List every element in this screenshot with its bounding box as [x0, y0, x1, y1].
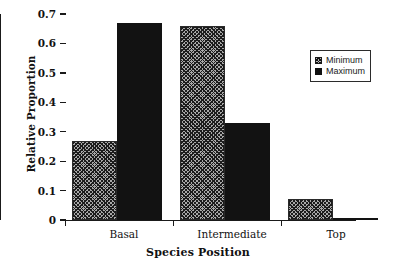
hatched-swatch-icon — [315, 57, 322, 64]
bar-basal-minimum — [72, 141, 117, 220]
y-tick-label: 0.7 — [16, 9, 56, 20]
bars-layer — [65, 14, 356, 220]
bar-chart: Relative Proportion 0 0.1 0.2 0.3 0.4 0.… — [0, 0, 396, 273]
x-axis-tick — [65, 220, 66, 226]
x-category-label-top: Top — [276, 229, 396, 240]
legend-label-minimum: Minimum — [326, 56, 363, 65]
legend-item-maximum: Maximum — [315, 66, 365, 77]
chart-legend: Minimum Maximum — [310, 50, 371, 82]
y-tick-label: 0 — [16, 215, 56, 226]
y-axis-line — [0, 14, 1, 220]
x-axis-tick — [281, 220, 282, 226]
bar-top-maximum — [333, 218, 378, 220]
x-category-label-basal: Basal — [64, 229, 184, 240]
y-tick-label: 0.2 — [16, 156, 56, 167]
y-tick-label: 0.4 — [16, 97, 56, 108]
bar-intermediate-maximum — [225, 123, 270, 220]
x-category-label-intermediate: Intermediate — [172, 229, 292, 240]
legend-label-maximum: Maximum — [326, 67, 365, 76]
bar-basal-maximum — [117, 23, 162, 220]
bar-intermediate-minimum — [180, 26, 225, 220]
solid-swatch-icon — [315, 68, 322, 75]
y-tick-label: 0.6 — [16, 38, 56, 49]
x-axis-tick — [173, 220, 174, 226]
legend-item-minimum: Minimum — [315, 55, 365, 66]
bar-top-minimum — [288, 199, 333, 220]
y-tick-label: 0.1 — [16, 185, 56, 196]
y-tick-label: 0.5 — [16, 68, 56, 79]
y-axis-title: Relative Proportion — [25, 34, 37, 194]
y-tick-label: 0.3 — [16, 126, 56, 137]
x-axis-title: Species Position — [0, 246, 396, 259]
